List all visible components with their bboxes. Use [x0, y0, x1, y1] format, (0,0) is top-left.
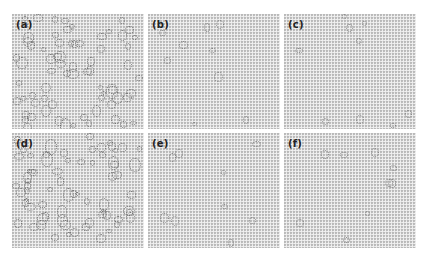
defect-cluster — [14, 153, 24, 160]
defect-cluster — [86, 66, 94, 76]
defect-cluster — [97, 143, 105, 151]
defect-cluster — [86, 133, 94, 140]
defect-cluster — [118, 143, 127, 152]
defect-cluster — [106, 29, 113, 35]
defect-cluster — [20, 147, 27, 154]
defect-cluster — [29, 92, 36, 99]
defect-cluster — [27, 153, 34, 159]
defect-cluster — [221, 204, 228, 209]
defect-cluster — [296, 219, 304, 227]
defect-cluster — [57, 205, 67, 217]
defect-cluster — [175, 149, 183, 158]
defect-cluster — [130, 121, 136, 126]
defect-cluster — [216, 20, 224, 29]
defect-cluster — [60, 118, 71, 129]
defect-cluster — [126, 212, 135, 222]
defect-cluster — [38, 201, 48, 208]
panel-d: (d) — [12, 133, 144, 248]
defect-cluster — [129, 158, 141, 172]
defect-cluster — [71, 123, 76, 128]
defect-cluster — [97, 33, 107, 41]
defect-cluster — [132, 35, 138, 41]
defect-cluster — [14, 219, 22, 227]
panel-e: (e) — [148, 133, 280, 248]
panel-label: (b) — [152, 19, 169, 30]
defect-cluster — [243, 116, 250, 124]
defect-cluster — [106, 229, 112, 233]
defect-cluster — [92, 105, 101, 116]
defect-cluster — [47, 68, 55, 74]
defect-cluster — [60, 220, 71, 230]
defect-cluster — [356, 115, 364, 125]
defect-cluster — [221, 170, 226, 175]
defect-cluster — [66, 232, 72, 237]
defect-cluster — [125, 43, 131, 50]
defect-cluster — [171, 216, 179, 226]
defect-cluster — [103, 211, 111, 221]
panel-label: (c) — [288, 19, 304, 30]
defect-cluster — [52, 168, 64, 176]
defect-cluster — [124, 60, 132, 71]
defect-cluster — [343, 237, 350, 244]
defect-cluster — [54, 51, 66, 64]
defect-cluster — [228, 239, 234, 247]
defect-cluster — [22, 22, 28, 29]
defect-cluster — [41, 105, 51, 117]
defect-cluster — [52, 16, 58, 22]
defect-cluster — [321, 150, 329, 159]
defect-cluster — [405, 110, 412, 117]
defect-cluster — [28, 169, 38, 176]
defect-cluster — [20, 96, 27, 101]
defect-cluster — [97, 45, 105, 53]
defect-cluster — [33, 14, 44, 22]
defect-cluster — [71, 40, 78, 48]
defect-cluster — [322, 118, 330, 125]
defect-cluster — [108, 156, 119, 170]
defect-cluster — [77, 159, 85, 165]
panel-a: (a) — [12, 14, 144, 129]
defect-cluster — [96, 234, 107, 243]
defect-cluster — [63, 26, 72, 33]
defect-cluster — [60, 149, 68, 157]
defect-cluster — [65, 158, 71, 164]
defect-cluster — [137, 146, 142, 152]
defect-cluster — [214, 72, 222, 82]
defect-cluster — [31, 99, 40, 107]
defect-cluster — [51, 234, 59, 241]
defect-cluster — [27, 113, 36, 121]
defect-cluster — [114, 221, 120, 228]
panel-label: (e) — [152, 138, 169, 149]
defect-cluster — [111, 115, 119, 125]
defect-cluster — [87, 57, 94, 66]
defect-cluster — [295, 48, 302, 54]
defect-cluster — [23, 123, 32, 129]
defect-cluster — [209, 48, 216, 54]
defect-cluster — [84, 198, 90, 205]
defect-cluster — [47, 187, 53, 192]
defect-cluster — [45, 139, 57, 155]
defect-cluster — [41, 47, 46, 52]
defect-cluster — [99, 152, 106, 158]
defect-cluster — [164, 57, 171, 65]
defect-cluster — [169, 153, 176, 161]
defect-cluster — [252, 141, 261, 148]
defect-cluster — [61, 18, 69, 25]
defect-cluster — [390, 165, 397, 171]
defect-cluster — [346, 24, 353, 32]
defect-cluster — [125, 26, 133, 34]
defect-cluster — [362, 21, 367, 26]
defect-cluster — [113, 148, 119, 153]
defect-cluster — [16, 80, 22, 86]
defect-cluster — [90, 160, 95, 166]
defect-cluster — [14, 136, 21, 145]
defect-cluster — [127, 191, 136, 198]
defect-cluster — [98, 85, 103, 90]
defect-cluster — [356, 38, 362, 44]
defect-cluster — [342, 14, 347, 19]
defect-cluster — [192, 122, 197, 127]
defect-cluster — [388, 179, 397, 187]
panel-f: (f) — [284, 133, 416, 248]
defect-cluster — [98, 95, 105, 101]
defect-cluster — [249, 217, 256, 224]
defect-cluster — [86, 120, 92, 127]
